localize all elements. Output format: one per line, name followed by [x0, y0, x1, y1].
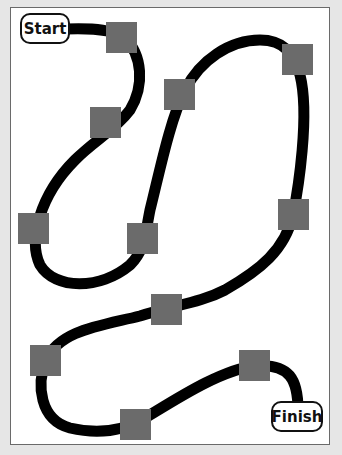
- finish-label: Finish: [271, 401, 323, 432]
- board-space-7: [278, 199, 309, 230]
- board-space-8: [151, 294, 182, 325]
- board-space-3: [164, 79, 195, 110]
- board-space-5: [18, 213, 49, 244]
- board-space-6: [127, 223, 158, 254]
- start-label: Start: [20, 13, 70, 44]
- board-space-4: [282, 44, 313, 75]
- board-space-2: [90, 107, 121, 138]
- board-space-9: [30, 345, 61, 376]
- board-space-10: [239, 350, 270, 381]
- board-space-11: [120, 409, 151, 440]
- board-space-1: [106, 22, 137, 53]
